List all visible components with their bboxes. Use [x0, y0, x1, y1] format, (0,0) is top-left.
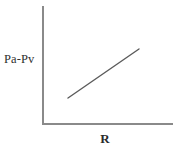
x-axis-label: R — [42, 131, 168, 146]
series-line-pa-pv-vs-r — [68, 49, 139, 98]
x-axis-line — [42, 123, 173, 125]
chart-figure: Pa-Pv R — [0, 0, 173, 158]
y-axis-line — [42, 6, 44, 125]
y-axis-label: Pa-Pv — [4, 52, 42, 66]
